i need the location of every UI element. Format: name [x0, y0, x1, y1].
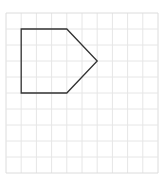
grid-figure: [0, 0, 163, 178]
